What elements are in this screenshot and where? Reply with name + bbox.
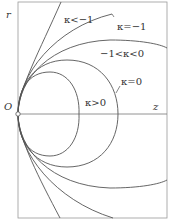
- curve-kappa-lt-minus1: [18, 2, 61, 114]
- r-axis-label: r: [6, 9, 12, 20]
- origin-label: O: [4, 101, 12, 112]
- label-kappa-eq-minus1: κ=−1: [117, 21, 146, 32]
- z-axis-label: z: [152, 101, 159, 112]
- label-kappa-lt-minus1: κ<−1: [64, 14, 93, 25]
- conic-sections-diagram: r z O κ<−1 κ=−1 −1<κ<0 κ=0 κ>0: [0, 0, 173, 224]
- label-kappa-gt-0: κ>0: [85, 97, 106, 108]
- label-kappa-between: −1<κ<0: [100, 48, 144, 59]
- label-kappa-eq-0: κ=0: [121, 76, 142, 87]
- origin-marker: [16, 112, 20, 116]
